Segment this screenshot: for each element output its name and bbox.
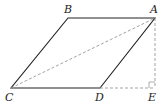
label-D: D	[94, 91, 104, 104]
label-B: B	[63, 3, 72, 16]
right-angle-marker	[149, 82, 155, 88]
diagonal-AC	[11, 18, 155, 88]
geometry-diagram: B A C D E	[0, 0, 168, 107]
label-E: E	[147, 91, 156, 104]
label-C: C	[5, 91, 14, 104]
label-A: A	[149, 3, 158, 16]
